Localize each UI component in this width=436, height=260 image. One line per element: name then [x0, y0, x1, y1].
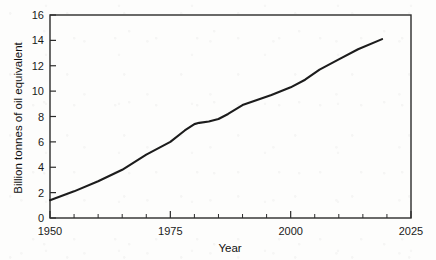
- y-tick-label: 12: [32, 60, 44, 72]
- x-axis-title: Year: [218, 242, 241, 254]
- y-tick-label: 4: [38, 161, 44, 173]
- y-tick-label: 16: [32, 9, 44, 21]
- line-chart: 1950197520002025 0246810121416 Year Bill…: [0, 0, 436, 260]
- y-axis-title: Billion tonnes of oil equivalent: [12, 41, 24, 193]
- y-tick-label: 6: [38, 136, 44, 148]
- y-tick-label: 10: [32, 85, 44, 97]
- x-tick-label: 2000: [278, 225, 302, 237]
- x-tick-label: 2025: [399, 225, 423, 237]
- y-tick-label: 2: [38, 187, 44, 199]
- chart-background: [0, 0, 436, 260]
- chart-canvas: 1950197520002025 0246810121416 Year Bill…: [0, 0, 436, 260]
- y-tick-label: 0: [38, 212, 44, 224]
- y-tick-label: 14: [32, 34, 44, 46]
- x-tick-label: 1975: [158, 225, 182, 237]
- x-tick-label: 1950: [38, 225, 62, 237]
- y-tick-label: 8: [38, 111, 44, 123]
